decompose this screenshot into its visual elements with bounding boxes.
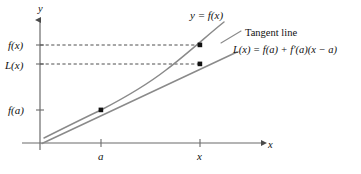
y-tick-label-L-of-x: L(x) — [5, 60, 23, 71]
function-curve — [44, 22, 224, 138]
y-tick-label-f-of-a: f(a) — [8, 105, 24, 116]
point-a-fa — [99, 108, 104, 113]
tangent-leader-line — [221, 31, 241, 43]
tangent-line-formula: L(x) = f(a) + f′(a)(x − a) — [233, 44, 337, 55]
figure-canvas — [0, 0, 361, 174]
y-tick-label-f-of-x: f(x) — [8, 40, 23, 51]
point-x-Lx — [198, 62, 203, 67]
y-axis-label: y — [38, 3, 43, 14]
tangent-line — [42, 52, 237, 144]
x-tick-label-x: x — [197, 151, 202, 162]
x-tick-label-a: a — [98, 151, 104, 162]
curve-label: y = f(x) — [190, 10, 223, 21]
point-x-fx — [198, 43, 203, 48]
x-axis-label: x — [268, 139, 273, 150]
tangent-line-figure: y x f(x) L(x) f(a) a x y = f(x) Tangent … — [0, 0, 361, 174]
tangent-line-label: Tangent line — [245, 27, 297, 38]
